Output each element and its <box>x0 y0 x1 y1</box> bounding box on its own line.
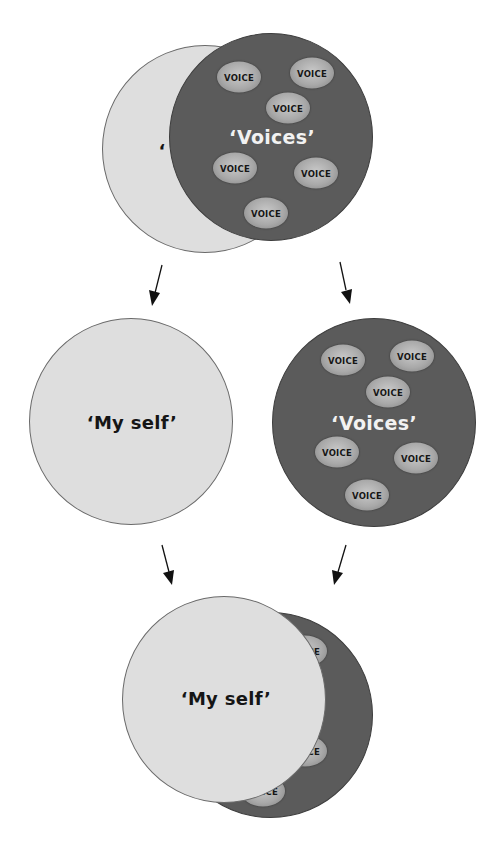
diagram-canvas: ‘ VOICE VOICE VOICE ‘Voices’ VOICE VOICE… <box>0 0 498 843</box>
arrow-down-right-bottom-left <box>162 545 174 585</box>
arrow-down-right-top <box>340 262 352 304</box>
arrows-layer <box>0 0 498 843</box>
arrow-down-left-top <box>149 265 162 306</box>
arrow-down-left-bottom-right <box>332 545 346 585</box>
